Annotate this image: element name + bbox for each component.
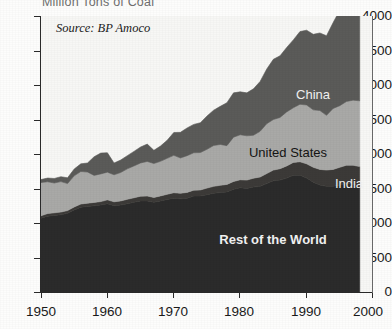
series-label-united-states: United States: [249, 145, 327, 160]
y-axis-line: [40, 16, 41, 293]
series-label-rest-of-world: Rest of the World: [219, 232, 326, 247]
x-tick-label: 1990: [291, 305, 321, 319]
x-tick-label: 1980: [224, 305, 254, 319]
x-axis-line: [40, 292, 373, 293]
series-label-india: India: [335, 176, 363, 191]
chart-title: Million Tons of Coal: [42, 0, 154, 9]
series-label-china: China: [296, 87, 330, 102]
source-annotation: Source: BP Amoco: [56, 21, 150, 36]
x-tick-label: 1960: [92, 305, 122, 319]
coal-production-chart: Million Tons of Coal 0 500 1000 1500 200…: [0, 0, 392, 329]
x-tick-label: 2000: [353, 305, 383, 319]
x-tick-label: 1970: [158, 305, 188, 319]
plot-right-border: [372, 16, 373, 293]
x-tick-label: 1950: [26, 305, 56, 319]
